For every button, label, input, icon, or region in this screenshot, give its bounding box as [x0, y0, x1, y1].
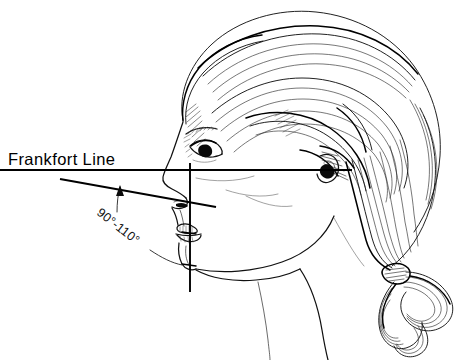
lip-tick-mark [182, 232, 196, 234]
line-art-illustration: 90°-110° Frankfort Line [0, 0, 460, 360]
ear-group [317, 154, 339, 182]
face-group [163, 122, 364, 360]
chin-tick-mark [182, 264, 196, 266]
eye-group [186, 127, 222, 162]
angle-leader-curve [150, 250, 182, 265]
ponytail-group [379, 264, 453, 357]
profile-diagram-figure: 90°-110° Frankfort Line [0, 0, 460, 360]
angle-label-group: 90°-110° [94, 205, 142, 247]
angle-label: 90°-110° [94, 205, 142, 247]
ponytail-tie-shading [385, 268, 406, 281]
nasolabial-tangent-line [60, 179, 216, 207]
frankfort-line-label: Frankfort Line [8, 150, 115, 168]
hair-group [182, 11, 441, 270]
annotation-group: 90°-110° Frankfort Line [0, 150, 352, 292]
